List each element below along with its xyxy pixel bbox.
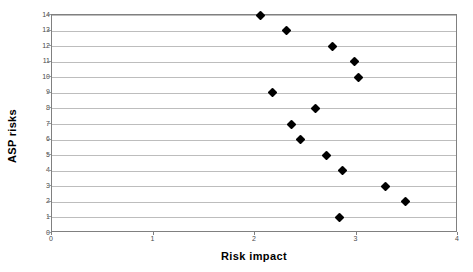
- y-tick-mark: [47, 170, 51, 171]
- gridline-horizontal: [52, 124, 456, 125]
- y-tick-mark: [47, 45, 51, 46]
- data-point: [311, 103, 321, 113]
- y-tick-mark: [47, 14, 51, 15]
- gridline-horizontal: [52, 31, 456, 32]
- data-point: [337, 166, 347, 176]
- y-tick-mark: [47, 154, 51, 155]
- y-tick-mark: [47, 76, 51, 77]
- x-tick-label: 4: [445, 235, 469, 242]
- x-tick-mark: [254, 232, 255, 235]
- data-point: [400, 197, 410, 207]
- x-axis-title: Risk impact: [51, 250, 457, 262]
- gridline-horizontal: [52, 202, 456, 203]
- y-axis-title: ASP risks: [0, 0, 24, 272]
- gridline-horizontal: [52, 155, 456, 156]
- data-point: [350, 57, 360, 67]
- x-tick-label: 2: [242, 235, 266, 242]
- x-tick-mark: [356, 232, 357, 235]
- gridline-horizontal: [52, 108, 456, 109]
- y-tick-mark: [47, 30, 51, 31]
- x-tick-label: 0: [39, 235, 63, 242]
- x-tick-label: 1: [141, 235, 165, 242]
- data-point: [381, 181, 391, 191]
- y-tick-mark: [47, 92, 51, 93]
- y-tick-mark: [47, 216, 51, 217]
- data-point: [255, 10, 265, 20]
- data-point: [334, 212, 344, 222]
- gridline-horizontal: [52, 77, 456, 78]
- plot-area: [51, 14, 457, 232]
- data-point: [287, 119, 297, 129]
- gridline-horizontal: [52, 15, 456, 16]
- x-tick-mark: [457, 232, 458, 235]
- x-tick-mark: [51, 232, 52, 235]
- gridline-horizontal: [52, 186, 456, 187]
- y-tick-mark: [47, 61, 51, 62]
- gridline-horizontal: [52, 46, 456, 47]
- data-point: [321, 150, 331, 160]
- gridline-horizontal: [52, 217, 456, 218]
- y-tick-mark: [47, 185, 51, 186]
- data-point: [327, 41, 337, 51]
- y-tick-mark: [47, 201, 51, 202]
- gridline-horizontal: [52, 62, 456, 63]
- y-tick-mark: [47, 123, 51, 124]
- y-tick-mark: [47, 139, 51, 140]
- gridline-horizontal: [52, 171, 456, 172]
- data-point: [354, 72, 364, 82]
- data-point: [296, 135, 306, 145]
- gridline-horizontal: [52, 140, 456, 141]
- y-tick-mark: [47, 107, 51, 108]
- x-tick-mark: [153, 232, 154, 235]
- gridline-horizontal: [52, 93, 456, 94]
- data-point: [282, 26, 292, 36]
- data-point: [267, 88, 277, 98]
- x-tick-label: 3: [344, 235, 368, 242]
- scatter-chart: ASP risks Risk impact 012345678910111213…: [0, 0, 473, 272]
